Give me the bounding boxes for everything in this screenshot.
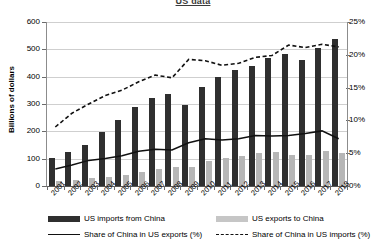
legend-swatch-exports-icon	[216, 216, 248, 222]
y-tick-label-left: 200	[6, 126, 40, 135]
legend-row-lines: Share of China in US exports (%) Share o…	[48, 230, 378, 246]
legend-label-exports: US exports to China	[252, 214, 324, 223]
legend-swatch-imports-icon	[48, 216, 80, 222]
y-tick-label-left: 500	[6, 44, 40, 53]
chart-container: US data Billions of dollars 010020030040…	[0, 0, 386, 251]
y-tick-label-left: 100	[6, 154, 40, 163]
plot-area	[46, 22, 348, 187]
line-share-imports	[55, 44, 338, 127]
y-tick-label-left: 600	[6, 17, 40, 26]
y-tick-label-right: 20%	[349, 50, 383, 59]
y-tick-label-left: 400	[6, 72, 40, 81]
y-tick-label-left: 300	[6, 99, 40, 108]
y-tick-label-right: 5%	[349, 148, 383, 157]
legend-item-us-exports[interactable]: US exports to China	[216, 214, 324, 223]
legend-item-us-imports[interactable]: US imports from China	[48, 214, 165, 223]
line-share-exports	[55, 131, 338, 169]
line-series-group	[47, 22, 347, 186]
legend-label-share-exports: Share of China in US exports (%)	[84, 230, 202, 239]
legend-item-share-exports[interactable]: Share of China in US exports (%)	[48, 230, 202, 239]
legend-item-share-imports[interactable]: Share of China in US imports (%)	[216, 230, 370, 239]
legend-label-imports: US imports from China	[84, 214, 165, 223]
y-tick-label-right: 15%	[349, 83, 383, 92]
chart-title: US data	[0, 0, 386, 6]
legend-swatch-share-exports-icon	[48, 234, 80, 235]
legend-swatch-share-imports-icon	[216, 234, 248, 235]
legend-label-share-imports: Share of China in US imports (%)	[252, 230, 370, 239]
chart-legend: US imports from China US exports to Chin…	[48, 214, 378, 246]
y-tick-label-left: 0	[6, 181, 40, 190]
y-tick-label-right: 25%	[349, 17, 383, 26]
y-tick-label-right: 10%	[349, 115, 383, 124]
y-tick-label-right: 0%	[349, 181, 383, 190]
x-tickmark	[47, 186, 48, 190]
legend-row-bars: US imports from China US exports to Chin…	[48, 214, 378, 230]
